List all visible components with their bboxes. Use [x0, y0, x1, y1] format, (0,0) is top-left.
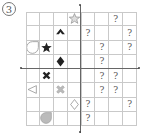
grid-cell	[109, 41, 123, 55]
grid-cell	[54, 55, 68, 69]
grid-cell: ?	[123, 26, 137, 40]
question-mark: ?	[127, 42, 132, 52]
diamond-black-icon	[55, 56, 66, 67]
grid-cell: ?	[95, 41, 109, 55]
question-mark: ?	[127, 99, 132, 109]
grid-cell	[123, 83, 137, 97]
grid-cell	[82, 55, 96, 69]
question-mark: ?	[113, 14, 118, 24]
grid-cell	[40, 26, 54, 40]
grid-cell: ?	[95, 55, 109, 69]
grid-cell	[95, 12, 109, 26]
axis-end-dot	[20, 67, 22, 69]
grid-cell: ?	[95, 83, 109, 97]
grid-cell	[54, 83, 68, 97]
cross-gray-icon	[55, 84, 66, 95]
grid-cell: ?	[109, 69, 123, 83]
grid-cell	[54, 41, 68, 55]
grid-cell	[40, 12, 54, 26]
grid-cell	[40, 41, 54, 55]
axis-end-dot	[79, 4, 81, 6]
grid-cell	[40, 112, 54, 126]
question-mark: ?	[113, 85, 118, 95]
grid-cell: ?	[82, 26, 96, 40]
triangle-left-outline-icon	[27, 84, 38, 95]
grid-cell: ?	[109, 12, 123, 26]
question-mark: ?	[86, 28, 91, 38]
grid-cell	[123, 69, 137, 83]
grid-cell	[82, 41, 96, 55]
grid-cell	[26, 26, 40, 40]
grid-cell	[95, 112, 109, 126]
question-mark: ?	[99, 71, 104, 81]
grid-cell	[54, 69, 68, 83]
vertical-axis	[80, 5, 81, 133]
grid-cell	[26, 12, 40, 26]
grid-cell	[26, 112, 40, 126]
question-mark: ?	[99, 42, 104, 52]
axis-end-dot	[138, 67, 140, 69]
grid-cell	[54, 98, 68, 112]
grid-cell	[26, 69, 40, 83]
problem-number-label: 3	[2, 2, 16, 16]
grid-cell	[54, 26, 68, 40]
grid-cell	[109, 112, 123, 126]
grid-cell	[82, 83, 96, 97]
grid-cell: ?	[109, 83, 123, 97]
diamond-outline-icon	[69, 99, 80, 110]
drop-gray-icon	[40, 112, 52, 124]
grid-cell	[54, 12, 68, 26]
question-mark: ?	[99, 56, 104, 66]
grid-cell: ?	[95, 69, 109, 83]
grid-cell	[26, 41, 40, 55]
grid-cell: ?	[123, 98, 137, 112]
grid-cell	[109, 26, 123, 40]
grid-cell	[40, 55, 54, 69]
grid-cell	[109, 98, 123, 112]
grid-cell: ?	[82, 98, 96, 112]
grid-cell	[82, 69, 96, 83]
grid-cell: ?	[82, 112, 96, 126]
grid-cell	[95, 98, 109, 112]
grid-cell	[26, 83, 40, 97]
grid-cell	[40, 69, 54, 83]
grid-cell	[40, 98, 54, 112]
grid-cell	[26, 55, 40, 69]
question-mark: ?	[86, 99, 91, 109]
grid-cell	[109, 55, 123, 69]
question-mark: ?	[86, 113, 91, 123]
cross-black-icon	[41, 70, 52, 81]
grid-cell	[95, 26, 109, 40]
question-mark: ?	[113, 71, 118, 81]
grid-cell	[26, 98, 40, 112]
horizontal-axis	[21, 68, 139, 69]
grid-cell	[123, 55, 137, 69]
question-mark: ?	[127, 28, 132, 38]
circle-outline-icon	[26, 41, 39, 54]
star-outline-icon	[69, 13, 80, 24]
grid-cell: ?	[123, 41, 137, 55]
grid-cell	[123, 12, 137, 26]
symmetry-grid: ?????????????	[26, 12, 137, 126]
grid-cell	[123, 112, 137, 126]
axis-end-dot	[79, 131, 81, 133]
question-mark: ?	[99, 85, 104, 95]
grid-cell	[40, 83, 54, 97]
grid-cell	[54, 112, 68, 126]
grid-cell	[82, 12, 96, 26]
star-black-icon	[41, 42, 52, 53]
spade-black-icon	[55, 27, 66, 38]
